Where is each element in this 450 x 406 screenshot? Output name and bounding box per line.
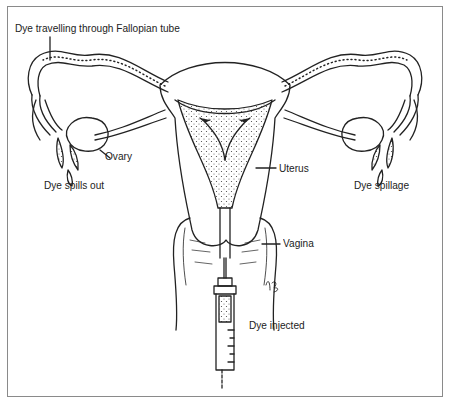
vagina-outline — [173, 218, 190, 330]
uterine-cavity — [178, 100, 272, 208]
ovary-left — [67, 118, 108, 152]
reproductive-anatomy-illustration — [0, 0, 450, 406]
catheter-needle — [224, 258, 226, 278]
label-dye-spills-out: Dye spills out — [44, 179, 104, 191]
fallopian-tube-left — [28, 51, 168, 96]
label-uterus: Uterus — [279, 162, 309, 174]
fimbriae-right — [388, 95, 418, 140]
fallopian-tube-right — [282, 51, 422, 96]
fimbriae-left — [32, 95, 62, 140]
ovary-right — [342, 118, 383, 152]
artist-signature — [266, 281, 278, 292]
label-ovary: Ovary — [105, 150, 132, 162]
label-dye-injected: Dye injected — [249, 319, 305, 331]
label-vagina: Vagina — [283, 237, 314, 249]
label-fallopian-tube: Dye travelling through Fallopian tube — [15, 22, 180, 34]
label-dye-spillage: Dye spillage — [354, 179, 409, 191]
syringe — [214, 278, 236, 390]
